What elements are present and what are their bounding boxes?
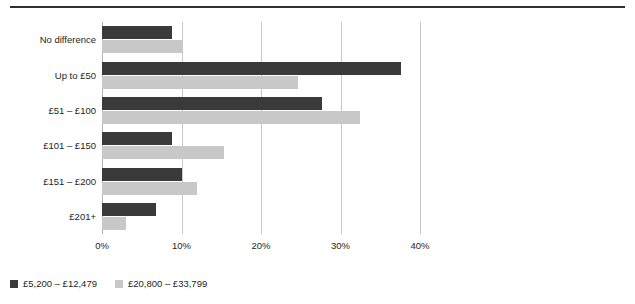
category-label: £201+	[0, 211, 96, 222]
category-label: £51 – £100	[0, 105, 96, 116]
bar	[102, 40, 182, 53]
bar	[102, 62, 401, 75]
bar-group	[102, 62, 420, 89]
x-tick-label: 10%	[157, 240, 207, 252]
category-label: Up to £50	[0, 70, 96, 81]
bar-group	[102, 97, 420, 124]
bar	[102, 132, 172, 145]
x-tick-label: 20%	[236, 240, 286, 252]
x-tick-label: 30%	[316, 240, 366, 252]
legend-item[interactable]: £20,800 – £33,799	[115, 278, 207, 290]
gridline-40	[420, 22, 421, 234]
bar-group	[102, 26, 420, 53]
category-label: £101 – £150	[0, 140, 96, 151]
legend-swatch-icon	[10, 280, 18, 288]
bar-chart-figure: No differenceUp to £50£51 – £100£101 – £…	[0, 0, 635, 304]
legend-swatch-icon	[115, 280, 123, 288]
bar	[102, 111, 360, 124]
bar	[102, 97, 322, 110]
bar	[102, 26, 172, 39]
bar	[102, 217, 126, 230]
x-axis-tick-labels: 0%10%20%30%40%	[0, 240, 635, 256]
bar	[102, 168, 182, 181]
bar	[102, 76, 298, 89]
x-tick-label: 40%	[395, 240, 445, 252]
x-tick-label: 0%	[77, 240, 127, 252]
bar-group	[102, 168, 420, 195]
bar	[102, 146, 224, 159]
category-label: £151 – £200	[0, 176, 96, 187]
category-label: No difference	[0, 34, 96, 45]
top-divider-rule	[10, 6, 625, 8]
bar	[102, 182, 197, 195]
plot-area	[102, 22, 420, 234]
legend-label: £5,200 – £12,479	[23, 278, 97, 290]
chart-legend: £5,200 – £12,479£20,800 – £33,799	[10, 278, 207, 290]
category-axis-labels: No differenceUp to £50£51 – £100£101 – £…	[0, 22, 96, 234]
legend-label: £20,800 – £33,799	[128, 278, 207, 290]
bar-group	[102, 203, 420, 230]
bar-group	[102, 132, 420, 159]
legend-item[interactable]: £5,200 – £12,479	[10, 278, 97, 290]
bar	[102, 203, 156, 216]
